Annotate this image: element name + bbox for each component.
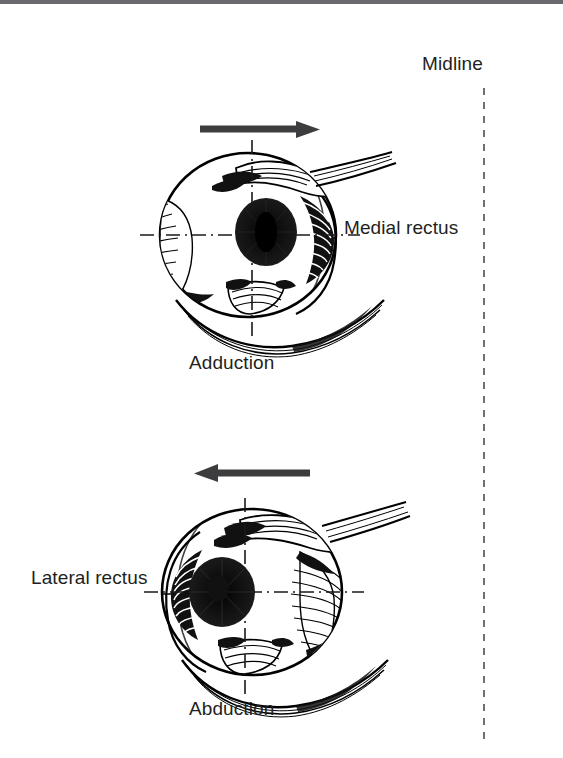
adduction-iris xyxy=(235,198,297,266)
lateral-rectus-label: Lateral rectus xyxy=(31,568,148,587)
panel-adduction xyxy=(126,121,396,357)
adduction-pupil xyxy=(255,212,277,252)
adduction-arrow-icon xyxy=(200,121,320,138)
medial-rectus-label: Medial rectus xyxy=(344,218,458,237)
panel-abduction xyxy=(144,464,410,717)
adduction-caption: Adduction xyxy=(189,353,274,372)
abduction-caption: Abduction xyxy=(189,699,274,718)
midline-label: Midline xyxy=(422,54,483,73)
eye-movement-figure: Midline Medial rectus Adduction Lateral … xyxy=(0,0,563,758)
superior-oblique-tail-top xyxy=(310,152,396,186)
abduction-iris xyxy=(189,557,255,627)
superior-oblique-tail-bottom xyxy=(322,502,410,542)
figure-canvas xyxy=(0,0,563,758)
abduction-arrow-icon xyxy=(194,464,310,482)
abduction-pupil xyxy=(207,575,229,601)
